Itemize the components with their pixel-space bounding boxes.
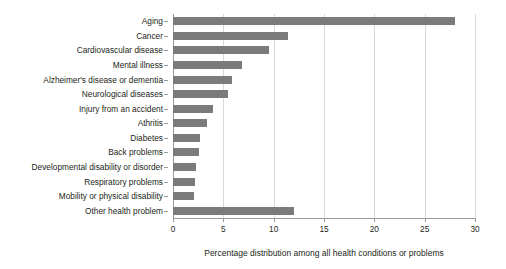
category-tick (164, 167, 168, 168)
category-label: Aging (142, 16, 163, 26)
x-tick (274, 218, 275, 222)
bar-row (173, 174, 475, 189)
category-label: Developmental disability or disorder (32, 162, 163, 172)
category-label: Diabetes (130, 133, 163, 143)
x-tick-label: 30 (470, 224, 479, 234)
bar (173, 207, 294, 215)
category-label: Back problems (108, 147, 163, 157)
x-tick-label: 5 (221, 224, 226, 234)
x-tick-label: 0 (171, 224, 176, 234)
bar-row (173, 160, 475, 175)
category-tick (164, 109, 168, 110)
category-tick (164, 21, 168, 22)
category-tick (164, 211, 168, 212)
bar (173, 61, 242, 69)
x-axis-ticks: 051015202530 (173, 218, 475, 238)
gridline-30 (475, 14, 476, 218)
x-tick-label: 25 (420, 224, 429, 234)
bar-row (173, 101, 475, 116)
bar (173, 148, 199, 156)
bar (173, 178, 195, 186)
category-tick (164, 152, 168, 153)
bar-chart: AgingCancerCardiovascular diseaseMental … (0, 0, 506, 269)
bar (173, 163, 196, 171)
bar-row (173, 87, 475, 102)
category-tick (164, 123, 168, 124)
x-tick-label: 10 (269, 224, 278, 234)
bar (173, 76, 232, 84)
category-label: Respiratory problems (84, 177, 163, 187)
bar-row (173, 58, 475, 73)
bar-row (173, 72, 475, 87)
bar-row (173, 203, 475, 218)
category-label: Cancer (136, 31, 163, 41)
category-tick (164, 80, 168, 81)
x-tick-label: 15 (319, 224, 328, 234)
bar-row (173, 131, 475, 146)
category-label: Injury from an accident (79, 104, 163, 114)
bar-row (173, 29, 475, 44)
bar-row (173, 145, 475, 160)
x-tick (324, 218, 325, 222)
x-tick (173, 218, 174, 222)
bar-row (173, 43, 475, 58)
category-label: Cardiovascular disease (77, 45, 163, 55)
bar-row (173, 189, 475, 204)
bar-row (173, 116, 475, 131)
bar (173, 46, 269, 54)
bar (173, 192, 194, 200)
category-label: Other health problem (85, 206, 163, 216)
category-label: Alzheimer's disease or dementia (43, 75, 163, 85)
bar-row (173, 14, 475, 29)
x-tick-label: 20 (370, 224, 379, 234)
category-tick (164, 94, 168, 95)
category-tick (164, 50, 168, 51)
bar (173, 90, 228, 98)
bar-series (173, 14, 475, 218)
category-label: Neurological diseases (82, 89, 163, 99)
x-tick (475, 218, 476, 222)
plot-area (173, 14, 475, 218)
category-tick (164, 196, 168, 197)
x-tick (425, 218, 426, 222)
category-tick (164, 36, 168, 37)
category-tick (164, 65, 168, 66)
bar (173, 105, 213, 113)
x-tick (223, 218, 224, 222)
bar (173, 32, 288, 40)
x-tick (374, 218, 375, 222)
category-label: Mobility or physical disability (59, 191, 163, 201)
category-tick (164, 138, 168, 139)
bar (173, 134, 200, 142)
category-label: Mental illness (113, 60, 163, 70)
category-label: Athritis (138, 118, 163, 128)
x-axis-title: Percentage distribution among all health… (173, 248, 475, 259)
bar (173, 119, 207, 127)
category-tick (164, 182, 168, 183)
bar (173, 17, 455, 25)
category-axis: AgingCancerCardiovascular diseaseMental … (0, 14, 168, 218)
